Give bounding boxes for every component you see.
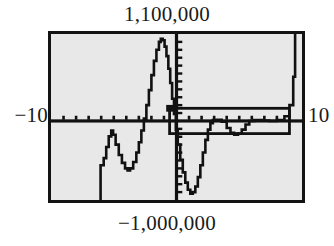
y-min-label: −1,000,000 <box>0 213 334 234</box>
x-max-label: 10 <box>308 105 334 126</box>
x-tick <box>251 116 254 120</box>
y-max-label: 1,100,000 <box>0 4 334 25</box>
x-tick <box>87 116 90 120</box>
y-tick <box>178 191 182 193</box>
y-tick <box>178 96 182 98</box>
y-tick <box>178 72 182 74</box>
x-tick <box>188 116 191 120</box>
x-tick <box>100 116 103 120</box>
x-tick <box>150 116 153 120</box>
y-tick <box>178 112 182 114</box>
y-tick <box>178 88 182 90</box>
x-tick <box>138 116 141 120</box>
curve-series <box>101 34 296 200</box>
y-tick <box>178 80 182 82</box>
y-tick <box>178 104 182 106</box>
x-min-label: −10 <box>4 105 48 126</box>
x-tick <box>263 116 266 120</box>
x-tick <box>75 116 78 120</box>
y-tick <box>178 49 182 51</box>
x-tick <box>62 116 65 120</box>
x-tick <box>112 116 115 120</box>
y-tick <box>178 41 182 43</box>
plot-canvas <box>51 34 302 200</box>
calculator-screen <box>48 31 305 203</box>
y-tick <box>178 64 182 66</box>
x-tick <box>200 116 203 120</box>
calculator-graph-figure: 1,100,000 −1,000,000 −10 10 <box>0 0 334 246</box>
y-tick <box>178 183 182 185</box>
y-tick <box>178 57 182 59</box>
curve-path <box>101 34 296 200</box>
x-tick <box>163 116 166 120</box>
zoom-box-corner-marker <box>166 105 173 112</box>
x-tick <box>238 116 241 120</box>
y-tick <box>178 175 182 177</box>
x-tick <box>125 116 128 120</box>
x-tick <box>225 116 228 120</box>
